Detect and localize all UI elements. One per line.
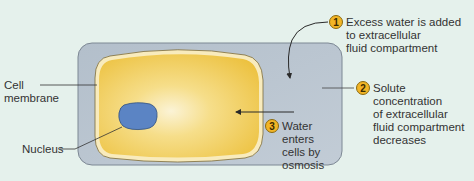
- step-3-text: Water enters cells by osmosis: [282, 120, 324, 172]
- step-1: 1 Excess water is added to extracellular…: [329, 16, 461, 55]
- nucleus: [119, 103, 157, 130]
- osmosis-diagram: Cell membrane Nucleus 1 Excess water is …: [0, 0, 474, 181]
- step-1-text: Excess water is added to extracellular f…: [346, 16, 461, 55]
- cell-membrane-label: Cell membrane: [4, 79, 59, 105]
- step-3: 3 Water enters cells by osmosis: [265, 120, 324, 172]
- step-2: 2 Solute concentration of extracellular …: [356, 82, 464, 147]
- step-3-badge: 3: [265, 119, 279, 133]
- step-2-text: Solute concentration of extracellular fl…: [373, 82, 464, 147]
- step-2-badge: 2: [356, 81, 370, 95]
- nucleus-label: Nucleus: [22, 143, 64, 156]
- step-1-badge: 1: [329, 15, 343, 29]
